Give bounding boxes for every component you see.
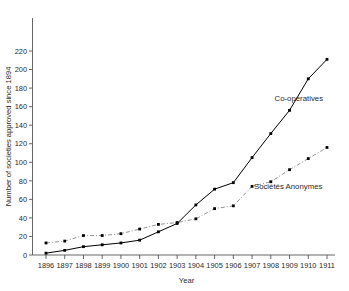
data-point-marker [82,245,85,248]
x-axis-title: Year [179,276,195,285]
societes-anonymes-series-label: Sociétés Anonymes [254,182,323,191]
data-point-marker [194,204,197,207]
data-point-marker [326,146,329,149]
y-axis-title: Number of societies approved since 1894 [4,67,13,207]
y-tick-label: 100 [15,158,27,167]
x-tick-label: 1905 [206,261,222,270]
y-tick-label: 140 [15,121,27,130]
data-point-marker [326,58,329,61]
data-point-marker [120,232,123,235]
data-point-marker [45,252,48,255]
data-point-marker [101,243,104,246]
y-tick-label: 40 [19,214,27,223]
x-tick-label: 1910 [300,261,316,270]
x-tick-label: 1908 [263,261,279,270]
data-point-marker [63,249,66,252]
data-point-marker [157,230,160,233]
x-tick-label: 1898 [75,261,91,270]
x-tick-label: 1909 [281,261,297,270]
y-tick-label: 60 [19,195,27,204]
x-tick-label: 1907 [244,261,260,270]
x-tick-label: 1902 [150,261,166,270]
data-point-marker [138,239,141,242]
series-line-societes-anonymes [46,147,327,243]
data-point-marker [101,234,104,237]
data-point-marker [138,228,141,231]
data-point-marker [82,234,85,237]
x-tick-label: 1897 [57,261,73,270]
series-line-co-operatives [46,59,327,253]
x-tick-label: 1903 [169,261,185,270]
y-tick-label: 80 [19,177,27,186]
y-tick-label: 120 [15,139,27,148]
x-tick-label: 1911 [319,261,335,270]
chart-canvas: 0204060801001201401601802002201896189718… [0,0,349,291]
data-point-marker [307,157,310,160]
y-tick-label: 0 [23,251,27,260]
data-point-marker [307,77,310,80]
data-point-marker [176,221,179,224]
data-point-marker [63,240,66,243]
data-point-marker [213,207,216,210]
data-point-marker [269,132,272,135]
x-tick-label: 1896 [38,261,54,270]
data-point-marker [288,168,291,171]
x-tick-label: 1906 [225,261,241,270]
data-point-marker [251,156,254,159]
data-point-marker [194,217,197,220]
data-point-marker [45,242,48,245]
data-point-marker [120,242,123,245]
y-tick-label: 160 [15,102,27,111]
y-tick-label: 180 [15,84,27,93]
y-tick-label: 220 [15,47,27,56]
chart-figure: 0204060801001201401601802002201896189718… [0,0,349,291]
data-point-marker [213,188,216,191]
x-tick-label: 1899 [94,261,110,270]
data-point-marker [232,204,235,207]
x-tick-label: 1904 [188,261,204,270]
data-point-marker [157,223,160,226]
y-tick-label: 20 [19,232,27,241]
data-point-marker [232,181,235,184]
x-tick-label: 1900 [113,261,129,270]
y-tick-label: 200 [15,65,27,74]
data-point-marker [288,109,291,112]
x-tick-label: 1901 [131,261,147,270]
co-operatives-series-label: Co-operatives [275,94,324,103]
